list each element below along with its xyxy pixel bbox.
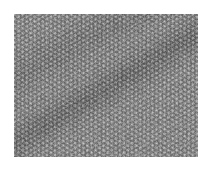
micrograph-image [14,14,198,157]
lattice-texture [14,14,198,157]
